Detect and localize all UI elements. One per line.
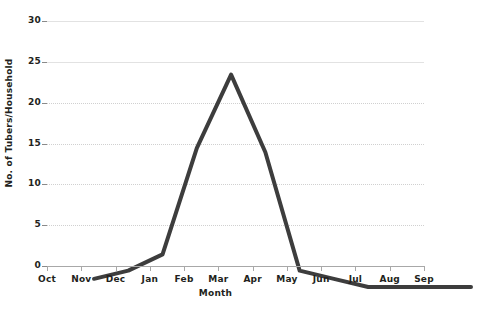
x-tick-mark	[253, 266, 254, 271]
y-tick-mark	[42, 184, 47, 185]
y-axis-title: No. of Tubers/Household	[4, 38, 14, 208]
x-tick-mark	[218, 266, 219, 271]
x-tick-mark	[47, 266, 48, 271]
y-tick-label: 0	[35, 261, 41, 270]
y-tick-label: 5	[35, 220, 41, 229]
series-polyline	[94, 75, 471, 287]
data-series-line	[47, 21, 477, 312]
x-axis-line	[47, 266, 424, 267]
x-axis-title: Month	[0, 288, 431, 298]
y-tick-mark	[42, 103, 47, 104]
x-tick-mark	[390, 266, 391, 271]
y-tick-mark	[42, 21, 47, 22]
plot-area	[47, 21, 424, 266]
y-tick-mark	[42, 62, 47, 63]
x-tick-mark	[150, 266, 151, 271]
y-tick-mark	[42, 225, 47, 226]
x-tick-mark	[424, 266, 425, 271]
x-tick-mark	[355, 266, 356, 271]
y-tick-label: 30	[28, 16, 41, 25]
y-tick-mark	[42, 144, 47, 145]
x-tick-mark	[184, 266, 185, 271]
x-tick-mark	[81, 266, 82, 271]
y-tick-label: 10	[28, 179, 41, 188]
x-tick-mark	[116, 266, 117, 271]
y-tick-label: 20	[28, 98, 41, 107]
x-tick-label: Sep	[404, 274, 444, 284]
x-tick-mark	[287, 266, 288, 271]
y-tick-label: 25	[28, 57, 41, 66]
x-tick-mark	[321, 266, 322, 271]
y-tick-label: 15	[28, 139, 41, 148]
